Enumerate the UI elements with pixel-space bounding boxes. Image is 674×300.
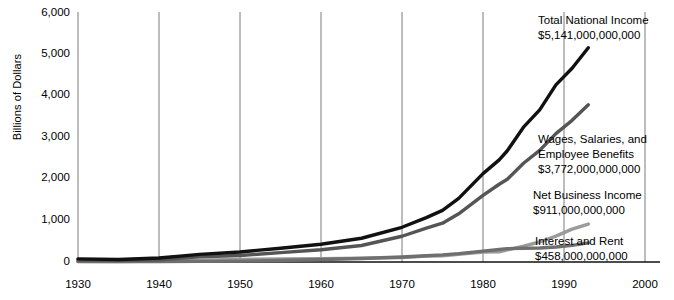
x-tick-1990: 1990 (551, 278, 577, 290)
y-tick-6000: 6,000 (41, 6, 70, 18)
y-tick-2000: 2,000 (41, 171, 70, 183)
annotation-wages-label-line2: Employee Benefits (538, 148, 634, 160)
x-tick-1980: 1980 (470, 278, 496, 290)
x-tick-1960: 1960 (308, 278, 334, 290)
annotation-wages-value: $3,772,000,000,000 (538, 163, 640, 175)
x-tick-2000: 2000 (632, 278, 658, 290)
annotation-total-national-income: Total National Income $5,141,000,000,000 (538, 14, 649, 41)
x-tick-1940: 1940 (146, 278, 172, 290)
data-series-layer (78, 48, 588, 262)
annotation-total-label: Total National Income (538, 14, 649, 26)
annotation-net-business-label: Net Business Income (533, 189, 642, 201)
annotation-wages-salaries-benefits: Wages, Salaries, and Employee Benefits $… (538, 133, 647, 175)
annotation-interest-rent-label: Interest and Rent (535, 235, 624, 247)
national-income-line-chart: Billions of Dollars 6,000 5,000 4,000 3,… (0, 0, 674, 300)
annotation-net-business-income: Net Business Income $911,000,000,000 (533, 189, 642, 216)
x-axis-tick-labels: 1930 1940 1950 1960 1970 1980 1990 2000 (65, 278, 658, 290)
annotation-interest-rent-value: $458,000,000,000 (535, 250, 628, 262)
y-axis-tick-labels: 6,000 5,000 4,000 3,000 2,000 1,000 0 (41, 6, 70, 267)
y-tick-1000: 1,000 (41, 213, 70, 225)
annotation-wages-label-line1: Wages, Salaries, and (538, 133, 647, 145)
x-tick-1930: 1930 (65, 278, 91, 290)
y-tick-5000: 5,000 (41, 47, 70, 59)
series-line-wages-salaries-and-employee-benefits (78, 105, 588, 261)
x-tick-1970: 1970 (389, 278, 415, 290)
annotation-total-value: $5,141,000,000,000 (538, 29, 640, 41)
chart-plot-area: 6,000 5,000 4,000 3,000 2,000 1,000 0 19… (0, 0, 674, 300)
y-tick-0: 0 (64, 255, 70, 267)
annotation-net-business-value: $911,000,000,000 (533, 204, 625, 216)
series-line-total-national-income (78, 48, 588, 260)
y-tick-4000: 4,000 (41, 88, 70, 100)
x-tick-1950: 1950 (227, 278, 253, 290)
y-tick-3000: 3,000 (41, 130, 70, 142)
